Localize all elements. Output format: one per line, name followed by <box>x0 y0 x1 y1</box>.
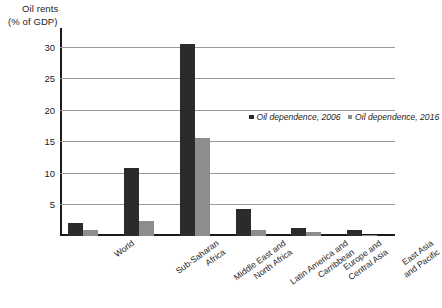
bar <box>124 168 139 236</box>
y-tick-label-5: 5 <box>50 199 55 210</box>
bar-group <box>283 28 339 236</box>
legend-entry-2016: Oil dependence, 2016 <box>348 112 440 122</box>
bar <box>236 209 251 236</box>
bar-group <box>116 28 172 236</box>
bar <box>139 221 154 236</box>
bar <box>291 228 306 236</box>
bar <box>306 232 321 236</box>
legend-label-2016: Oil dependence, 2016 <box>355 112 439 122</box>
plot-area: 51015202530 Oil dependence, 2006 Oil dep… <box>60 28 395 236</box>
bar-group <box>172 28 228 236</box>
bars-layer <box>60 28 395 236</box>
bar <box>362 235 377 236</box>
x-axis-label: World <box>112 238 137 260</box>
bar <box>68 223 83 236</box>
y-tick-label-15: 15 <box>44 136 55 147</box>
bar <box>180 44 195 236</box>
x-axis-category-labels: WorldSub-SaharanAfricaMiddle East andNor… <box>60 238 405 308</box>
chart-title-line-1: Oil rents <box>8 3 148 16</box>
bar-group <box>228 28 284 236</box>
chart-title-line-2: (% of GDP) <box>8 16 148 29</box>
y-tick-label-10: 10 <box>44 167 55 178</box>
legend-swatch-2016-icon <box>348 115 353 120</box>
legend-swatch-2006-icon <box>249 115 254 120</box>
x-axis-label: Sub-SaharanAfrica <box>173 238 227 286</box>
x-axis-label: Middle East andNorth Africa <box>231 238 294 292</box>
chart-title: Oil rents (% of GDP) <box>8 3 148 28</box>
bar <box>347 230 362 236</box>
bar <box>251 230 266 236</box>
chart-legend: Oil dependence, 2006 Oil dependence, 201… <box>249 112 439 122</box>
x-axis-label: East Asiaand Pacific <box>395 238 442 281</box>
bar-group <box>60 28 116 236</box>
y-tick-label-25: 25 <box>44 73 55 84</box>
bar <box>83 230 98 236</box>
legend-label-2006: Oil dependence, 2006 <box>257 112 341 122</box>
bar-group <box>339 28 395 236</box>
legend-entry-2006: Oil dependence, 2006 <box>249 112 341 122</box>
bar <box>195 138 210 236</box>
y-tick-label-30: 30 <box>44 41 55 52</box>
y-tick-label-20: 20 <box>44 104 55 115</box>
